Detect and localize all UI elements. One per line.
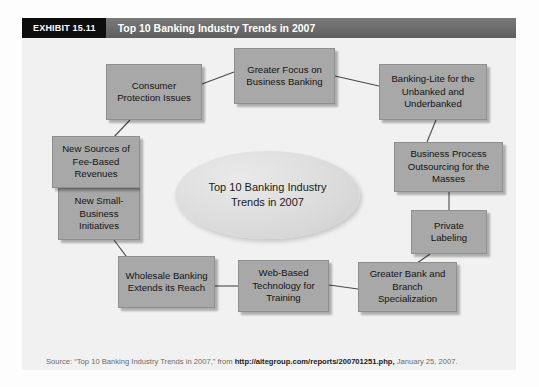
- node-consumer-protection-issues[interactable]: Consumer Protection Issues: [106, 64, 202, 120]
- node-label: Private Labeling: [412, 220, 486, 245]
- node-wholesale-banking-extends-its-reach[interactable]: Wholesale Banking Extends its Reach: [118, 256, 215, 308]
- node-business-process-outsourcing-for-the-masses[interactable]: Business Process Outsourcing for the Mas…: [394, 142, 503, 192]
- node-label: New Sources of Fee-Based Revenues: [53, 143, 139, 180]
- node-label: Consumer Protection Issues: [107, 80, 201, 105]
- node-new-sources-of-fee-based-revenues[interactable]: New Sources of Fee-Based Revenues: [52, 136, 140, 188]
- node-label: Greater Focus on Business Banking: [235, 64, 334, 89]
- source-note: Source: “Top 10 Banking Industry Trends …: [46, 356, 516, 370]
- node-new-small-business-initiatives[interactable]: New Small-Business Initiatives: [58, 188, 140, 240]
- source-line-2: Copyright © 2007 by Aite Group LLC. All …: [46, 368, 516, 370]
- node-web-based-technology-for-training[interactable]: Web-Based Technology for Training: [238, 260, 329, 312]
- exhibit-header: EXHIBIT 15.11 Top 10 Banking Industry Tr…: [22, 18, 516, 38]
- node-greater-bank-and-branch-specialization[interactable]: Greater Bank and Branch Specialization: [358, 262, 457, 312]
- diagram-panel: Top 10 Banking Industry Trends in 2007 C…: [22, 38, 516, 370]
- source-line-1: Source: “Top 10 Banking Industry Trends …: [46, 356, 516, 368]
- node-label: Web-Based Technology for Training: [239, 267, 328, 304]
- node-greater-focus-on-business-banking[interactable]: Greater Focus on Business Banking: [234, 48, 335, 104]
- node-private-labeling[interactable]: Private Labeling: [411, 210, 487, 254]
- node-label: Business Process Outsourcing for the Mas…: [395, 148, 502, 185]
- source-url[interactable]: http://aitegroup.com/reports/200701251.p…: [235, 357, 395, 366]
- center-ellipse-label: Top 10 Banking Industry Trends in 2007: [175, 180, 360, 209]
- node-label: Wholesale Banking Extends its Reach: [119, 270, 214, 295]
- node-label: Greater Bank and Branch Specialization: [359, 268, 456, 305]
- exhibit-number-tag: EXHIBIT 15.11: [22, 18, 106, 38]
- exhibit-figure: EXHIBIT 15.11 Top 10 Banking Industry Tr…: [0, 0, 539, 387]
- node-banking-lite-for-the-unbanked-and-underbanked[interactable]: Banking-Lite for the Unbanked and Underb…: [379, 64, 487, 120]
- center-ellipse: Top 10 Banking Industry Trends in 2007: [175, 151, 360, 239]
- node-label: Banking-Lite for the Unbanked and Underb…: [380, 73, 486, 110]
- node-label: New Small-Business Initiatives: [59, 195, 139, 232]
- exhibit-title: Top 10 Banking Industry Trends in 2007: [106, 18, 316, 38]
- source-prefix: Source: “Top 10 Banking Industry Trends …: [46, 357, 235, 366]
- source-suffix: January 25, 2007.: [395, 357, 458, 366]
